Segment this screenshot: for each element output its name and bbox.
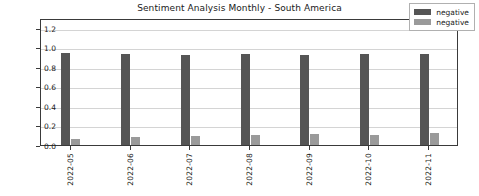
bar [310,134,319,145]
x-tick-label: 2022-06 [126,153,135,186]
x-tick-mark [309,146,310,150]
x-tick-mark [130,146,131,150]
x-tick-label: 2022-05 [66,153,75,186]
bar [430,133,439,145]
bar-group [241,20,260,145]
bar [251,135,260,145]
bar-group [360,20,379,145]
bar [360,54,369,145]
bar [71,139,80,145]
bar-group [121,20,140,145]
chart-title: Sentiment Analysis Monthly - South Ameri… [0,3,479,13]
legend-item: negative [414,17,469,27]
x-tick-mark [249,146,250,150]
bar-group [181,20,200,145]
legend-item: negative [414,7,469,17]
bar [121,54,130,145]
plot-area [40,19,458,146]
y-tick-label: 1.0 [26,44,56,53]
chart-figure: Sentiment Analysis Monthly - South Ameri… [0,0,479,196]
x-tick-label: 2022-11 [424,153,433,186]
bar [300,55,309,145]
legend-swatch-icon [414,19,431,25]
legend-label: negative [436,18,469,27]
bar [370,135,379,145]
x-tick-mark [368,146,369,150]
x-tick-label: 2022-08 [245,153,254,186]
y-tick-label: 1.2 [26,24,56,33]
chart-legend[interactable]: negative negative [409,3,475,31]
x-tick-label: 2022-10 [364,153,373,186]
bar [420,54,429,145]
bar-group [300,20,319,145]
y-tick-label: 0.8 [26,63,56,72]
bar [241,54,250,145]
bar-group [61,20,80,145]
y-tick-label: 0.4 [26,102,56,111]
y-tick-label: 0.6 [26,83,56,92]
y-tick-label: 0.2 [26,122,56,131]
x-tick-mark [428,146,429,150]
x-tick-mark [70,146,71,150]
bar-group [420,20,439,145]
x-tick-mark [189,146,190,150]
y-tick-label: 0.0 [26,142,56,151]
bar [131,137,140,145]
legend-swatch-icon [414,9,431,15]
x-tick-label: 2022-09 [305,153,314,186]
x-tick-label: 2022-07 [185,153,194,186]
bar [191,136,200,145]
bar [181,55,190,145]
legend-label: negative [436,8,469,17]
bar [61,53,70,145]
